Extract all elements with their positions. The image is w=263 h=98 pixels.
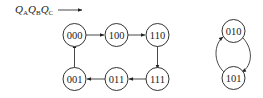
state-node-010: 010 (222, 20, 245, 43)
state-node-110: 110 (146, 24, 169, 47)
svg-text:010: 010 (226, 26, 242, 37)
state-node-011: 011 (105, 68, 128, 91)
svg-text:QAQBQC: QAQBQC (15, 3, 54, 17)
svg-text:011: 011 (109, 74, 124, 85)
svg-text:111: 111 (150, 74, 165, 85)
svg-text:100: 100 (109, 30, 125, 41)
state-node-000: 000 (63, 24, 86, 47)
edge-010-101 (242, 38, 250, 72)
svg-text:101: 101 (226, 73, 242, 84)
svg-text:000: 000 (67, 30, 83, 41)
state-variable-label: QAQBQC (15, 3, 82, 17)
state-node-111: 111 (146, 68, 169, 91)
state-node-001: 001 (63, 68, 86, 91)
state-node-100: 100 (105, 24, 128, 47)
state-diagram: QAQBQC 000 100 110 111 011 001 010 (0, 0, 263, 98)
edge-101-010 (216, 37, 224, 72)
svg-text:001: 001 (67, 74, 83, 85)
svg-text:110: 110 (150, 30, 165, 41)
state-node-101: 101 (222, 67, 245, 90)
